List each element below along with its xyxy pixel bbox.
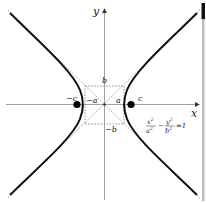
svg-text:b2: b2 [165, 126, 172, 135]
svg-text:a2: a2 [146, 126, 153, 135]
label-neg-b: −b [105, 125, 117, 134]
svg-text:−: − [158, 122, 164, 130]
hyperbola-right-branch [124, 13, 197, 195]
svg-text:x2: x2 [147, 117, 154, 126]
y-axis-label: y [92, 5, 100, 18]
side-bar [202, 3, 205, 201]
svg-text:y2: y2 [165, 117, 173, 126]
focus-right [127, 101, 134, 108]
equation: x2 a2 − y2 b2 =1 [146, 117, 186, 135]
origin-point [103, 103, 106, 106]
label-c: c [138, 94, 143, 103]
label-neg-a: −a [86, 96, 98, 105]
side-bar-top [202, 3, 206, 19]
x-axis-label: x [191, 107, 198, 120]
label-a: a [116, 96, 121, 105]
label-neg-c: −c [66, 94, 78, 103]
label-b: b [102, 76, 107, 85]
hyperbola-left-branch [10, 13, 83, 195]
hyperbola-diagram: y x b −b a −a c −c x2 a2 − y2 b2 =1 [0, 0, 206, 203]
svg-text:=1: =1 [176, 122, 186, 130]
